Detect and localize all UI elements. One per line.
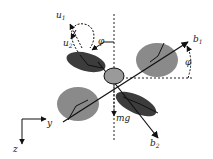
quadrotor-body (104, 68, 124, 84)
phi-right-label: φ (185, 57, 192, 67)
y-axis-label: y (46, 118, 53, 128)
u2-label: u2 (63, 38, 73, 49)
b2-label: b2 (150, 138, 160, 149)
quadrotor-diagram: mg b1 b2 φ u1 u2 φ y z (0, 0, 213, 159)
mg-label: mg (116, 113, 131, 123)
u-loop (71, 24, 93, 52)
phi-top-label: φ (98, 36, 105, 46)
rotor-left-light (57, 87, 99, 121)
z-axis-label: z (12, 144, 18, 154)
b1-label: b1 (193, 34, 203, 45)
u1-label: u1 (56, 10, 66, 21)
